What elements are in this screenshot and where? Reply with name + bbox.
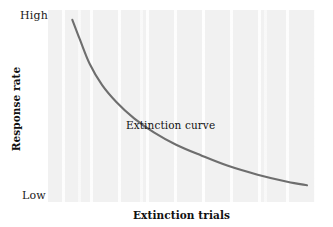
curve-annotation-label: Extinction curve [126,119,215,131]
x-axis-title: Extinction trials [48,209,315,221]
extinction-curve-figure: Response rate High Low Extinction curve … [0,0,333,227]
extinction-curve-plot [48,10,315,202]
y-axis-label-low: Low [22,189,46,202]
y-axis-label-high: High [20,9,48,22]
plot-area [48,10,315,202]
curve-line [72,20,307,185]
y-axis-title: Response rate [10,39,22,179]
